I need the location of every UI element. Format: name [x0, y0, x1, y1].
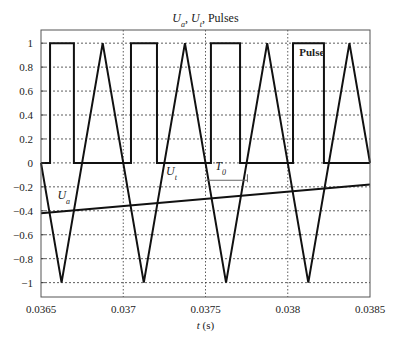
y-tick-label: −0.4	[13, 205, 33, 217]
y-tick-label: 0.8	[19, 61, 33, 73]
y-tick-label: 0.2	[19, 133, 33, 145]
x-tick-label: 0.037	[111, 303, 136, 315]
chart: 10.80.60.40.20−0.2−0.4−0.6−0.8−1 0.03650…	[0, 0, 401, 338]
y-tick-label: 0.6	[19, 85, 33, 97]
x-tick-label: 0.0385	[355, 303, 386, 315]
y-tick-label: 0.4	[19, 109, 33, 121]
x-tick-label: 0.0365	[26, 303, 57, 315]
chart-background	[0, 0, 401, 338]
y-tick-label: −0.8	[13, 253, 33, 265]
title-part: , Pulses	[202, 11, 239, 25]
y-tick-label: 0	[28, 157, 34, 169]
x-axis-unit: (s)	[200, 319, 215, 332]
y-tick-label: −1	[21, 277, 33, 289]
label-pulse-main: Pulse	[299, 46, 324, 58]
x-axis-label: t (s)	[197, 319, 215, 332]
x-tick-label: 0.038	[275, 303, 300, 315]
label-ua-sub: a	[66, 196, 70, 205]
y-tick-label: −0.6	[13, 229, 33, 241]
y-tick-label: −0.2	[13, 181, 33, 193]
y-tick-label: 1	[28, 37, 34, 49]
label-pulse: Pulse	[299, 46, 324, 58]
label-t0-sub: 0	[222, 168, 226, 177]
x-tick-label: 0.0375	[190, 303, 221, 315]
